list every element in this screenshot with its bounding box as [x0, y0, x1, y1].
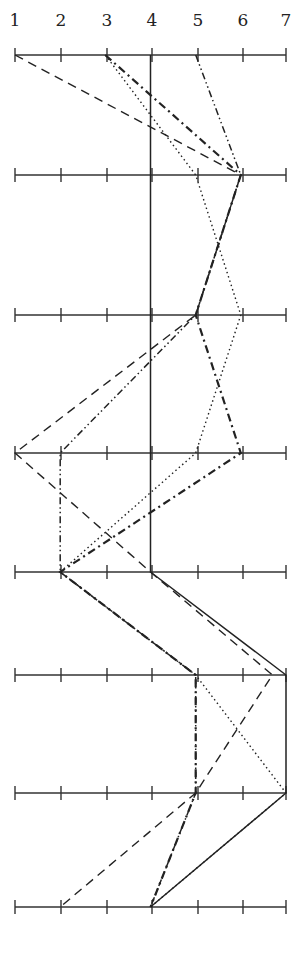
- profile-chart: 1234567: [0, 0, 308, 966]
- series-solid: [151, 55, 287, 907]
- scale-tick-labels: 1234567: [10, 10, 292, 30]
- tick-label-5: 5: [193, 10, 204, 30]
- tick-label-2: 2: [56, 10, 67, 30]
- tick-label-6: 6: [238, 10, 249, 30]
- tick-label-1: 1: [10, 10, 21, 30]
- series-dotted: [60, 55, 286, 907]
- series-lines: [15, 55, 286, 907]
- series-long-dash: [15, 55, 272, 907]
- tick-label-4: 4: [147, 10, 158, 30]
- tick-label-7: 7: [281, 10, 292, 30]
- tick-label-3: 3: [102, 10, 113, 30]
